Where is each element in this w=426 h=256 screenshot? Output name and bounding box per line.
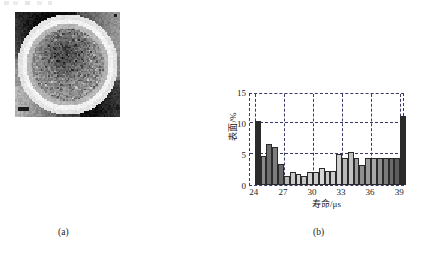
panel-b-histogram: 051015 242730333639 寿命/μs 表面/% bbox=[224, 86, 409, 216]
caption-panel-b: (b) bbox=[313, 228, 324, 238]
figure-page: (a) 051015 242730333639 寿命/μs 表面/% (b) bbox=[0, 0, 426, 256]
histogram-bar bbox=[400, 116, 406, 185]
panel-a-micrograph bbox=[15, 12, 120, 117]
y-tick-label: 15 bbox=[237, 89, 246, 98]
x-tick-label: 33 bbox=[337, 188, 346, 197]
bar-series bbox=[250, 94, 403, 185]
x-axis-label: 寿命/μs bbox=[249, 200, 404, 210]
y-tick-label: 5 bbox=[242, 151, 247, 160]
y-tick-label: 0 bbox=[242, 182, 247, 191]
x-tick-label: 39 bbox=[395, 188, 404, 197]
plot-frame bbox=[249, 93, 404, 186]
y-tick-label: 10 bbox=[237, 120, 246, 129]
scan-artifact bbox=[4, 1, 56, 5]
caption-panel-a: (a) bbox=[58, 228, 69, 238]
x-tick-label: 24 bbox=[249, 188, 258, 197]
x-tick-label: 30 bbox=[307, 188, 316, 197]
x-tick-label: 36 bbox=[366, 188, 375, 197]
y-axis-label: 表面/% bbox=[229, 104, 238, 150]
micrograph-canvas bbox=[15, 12, 120, 117]
x-tick-label: 27 bbox=[278, 188, 287, 197]
